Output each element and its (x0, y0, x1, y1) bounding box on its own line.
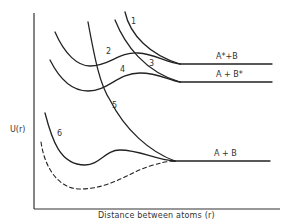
curve-label-3: 3 (149, 60, 154, 68)
asymptote-label-a-star-b: A*+B (216, 53, 238, 61)
x-axis-label: Distance between atoms (r) (98, 212, 215, 220)
curve-6 (45, 113, 175, 165)
curve-5 (88, 22, 175, 161)
y-axis-label: U(r) (10, 126, 25, 134)
curve-label-1: 1 (131, 18, 136, 26)
curve-label-4: 4 (120, 66, 125, 74)
asymptote-label-a-b: A + B (214, 150, 237, 158)
curve-2 (55, 32, 180, 66)
curve-ground-dashed (41, 142, 175, 189)
curve-label-5: 5 (112, 102, 117, 110)
curve-label-2: 2 (106, 48, 111, 56)
curve-4 (50, 60, 180, 91)
curve-label-6: 6 (57, 130, 62, 138)
asymptote-label-a-b-star: A + B* (216, 71, 243, 79)
potential-energy-diagram (0, 0, 284, 224)
